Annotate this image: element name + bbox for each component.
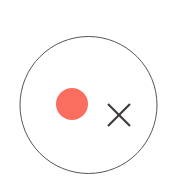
diagram-canvas <box>0 0 181 192</box>
red-dot-marker[interactable] <box>56 88 88 120</box>
diagram-svg <box>0 0 181 192</box>
boundary-circle <box>20 37 157 174</box>
cross-marker[interactable] <box>108 104 130 126</box>
